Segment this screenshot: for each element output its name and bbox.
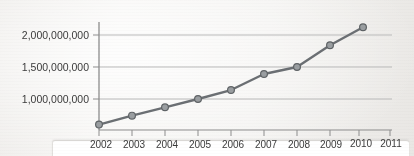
x-tick-label-8: 2010 [350, 138, 373, 149]
axes [93, 22, 392, 136]
y-tick-label-1: 1,500,000,000 [22, 61, 89, 73]
data-point-2009 [327, 42, 334, 49]
data-point-2010 [360, 24, 367, 31]
series-markers [96, 24, 367, 128]
gridlines [99, 35, 392, 99]
data-series [96, 24, 367, 128]
data-point-2005 [195, 96, 202, 103]
x-axis-labels: 2002 2003 2004 2005 2006 2007 2008 2009 … [90, 138, 402, 150]
y-tick-label-2: 1,000,000,000 [22, 93, 89, 105]
x-ticks [99, 130, 390, 136]
data-point-2008 [294, 64, 301, 71]
data-point-2003 [129, 112, 136, 119]
x-tick-label-9: 2011 [380, 138, 402, 149]
chart-screenshot: 2,000,000,000 1,500,000,000 1,000,000,00… [0, 0, 414, 156]
line-chart: 2,000,000,000 1,500,000,000 1,000,000,00… [0, 0, 414, 156]
series-line [99, 27, 363, 124]
x-tick-label-5: 2007 [255, 139, 278, 150]
data-point-2002 [96, 121, 103, 128]
y-axis-labels: 2,000,000,000 1,500,000,000 1,000,000,00… [22, 29, 89, 105]
x-tick-label-3: 2005 [189, 139, 212, 150]
x-tick-label-0: 2002 [90, 139, 113, 150]
x-tick-label-7: 2009 [320, 139, 343, 150]
y-tick-label-0: 2,000,000,000 [22, 29, 89, 41]
data-point-2006 [228, 87, 235, 94]
x-tick-label-4: 2006 [222, 139, 245, 150]
data-point-2007 [261, 71, 268, 78]
data-point-2004 [162, 104, 169, 111]
x-tick-label-2: 2004 [156, 139, 179, 150]
x-tick-label-6: 2008 [288, 139, 311, 150]
x-tick-label-1: 2003 [123, 139, 146, 150]
